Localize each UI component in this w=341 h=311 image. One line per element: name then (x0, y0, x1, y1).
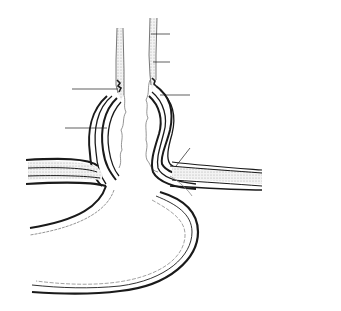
hiatal-hernia-diagram (0, 0, 341, 311)
anatomy-illustration (0, 0, 341, 311)
diaphragm-left (26, 159, 106, 186)
esophagus-right-wall (146, 18, 158, 172)
stomach-body (30, 176, 198, 294)
esophagus-left-wall (116, 28, 126, 168)
